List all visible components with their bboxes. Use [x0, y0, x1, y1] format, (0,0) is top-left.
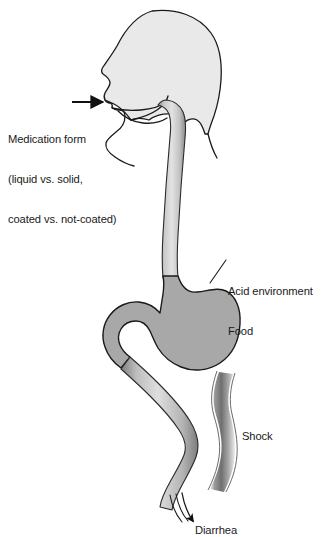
label-shock: Shock [242, 403, 273, 470]
stomach [103, 276, 240, 370]
label-food: Food [228, 325, 313, 338]
label-medication-form-line-1: Medication form [8, 133, 117, 146]
label-acid-environment-food: Acid environment Food [228, 258, 313, 365]
acid-food-leader-line [210, 260, 226, 283]
label-medication-form-line-3: coated vs. not-coated) [8, 213, 117, 226]
label-diarrhea: Diarrhea [195, 497, 237, 537]
neck-contour [208, 134, 217, 158]
head-silhouette [102, 10, 222, 134]
small-intestine [121, 357, 198, 510]
label-medication-form-line-2: (liquid vs. solid, [8, 173, 117, 186]
label-diarrhea-text: Diarrhea [195, 524, 237, 537]
label-acid-environment: Acid environment [228, 285, 313, 298]
gi-tract-diagram: Medication form (liquid vs. solid, coate… [0, 0, 335, 537]
esophagus [158, 100, 186, 278]
shock-wave-band [208, 371, 237, 492]
label-medication-form: Medication form (liquid vs. solid, coate… [8, 106, 117, 253]
label-shock-text: Shock [242, 430, 273, 443]
